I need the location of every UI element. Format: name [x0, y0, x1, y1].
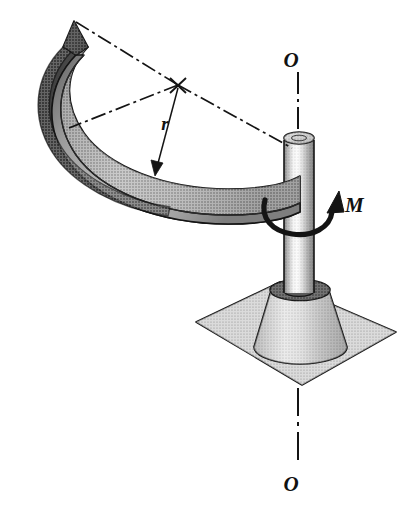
mechanics-figure: O O M r: [0, 0, 413, 518]
dash-dot-chord-upper-left: [76, 22, 178, 85]
dimension-arrow-icon: [151, 160, 163, 176]
axis-label-top: O: [283, 48, 298, 72]
dash-dot-chord-to-shaft: [178, 85, 292, 148]
moment-arrowhead: [327, 191, 344, 213]
moment-label: M: [344, 193, 365, 217]
shaft-top-texture: [284, 132, 314, 144]
band-outer-texture: [52, 47, 300, 224]
axis-label-bottom: O: [283, 472, 298, 496]
radius-label: r: [161, 113, 169, 134]
figure-canvas: O O M r: [0, 0, 413, 518]
